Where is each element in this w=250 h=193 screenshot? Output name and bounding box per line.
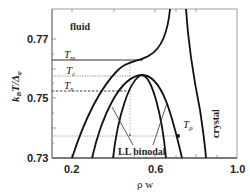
tc-label: Tc: [66, 64, 76, 78]
y-axis-title: kBT/Δφ: [9, 71, 23, 102]
tm-label: Tm: [64, 48, 75, 62]
tx-label: Tx: [64, 79, 74, 93]
xtick-0.6: 0.6: [148, 163, 163, 175]
xtick-1.0: 1.0: [230, 163, 245, 175]
trho-label: Tρ: [183, 118, 193, 132]
ytick-0.73: 0.73: [27, 152, 48, 164]
ytick-0.77: 0.77: [27, 33, 48, 45]
fluid-label: fluid: [70, 21, 90, 32]
binodal-pointer-right: [153, 103, 167, 145]
crystal-label: crystal: [210, 109, 221, 138]
ytick-0.75: 0.75: [27, 92, 48, 104]
ll-binodal-label: LL binodal: [118, 146, 166, 157]
x-axis-title: ρ w: [137, 178, 153, 190]
crystal-boundary-curve: [186, 9, 206, 158]
phase-diagram: fluid crystal LL binodal Tm Tc Tx Tρ 0.7…: [0, 0, 250, 193]
vertical-reference-marker: [129, 134, 131, 136]
xtick-0.2: 0.2: [64, 163, 79, 175]
trho-point: [176, 134, 180, 138]
